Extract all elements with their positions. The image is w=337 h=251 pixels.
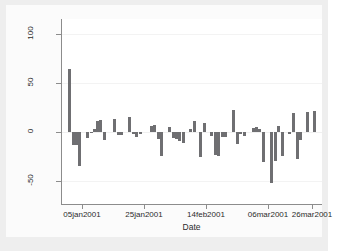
bar bbox=[178, 132, 181, 142]
y-axis-tick-label: 100 bbox=[27, 13, 35, 53]
plot-area bbox=[61, 19, 322, 205]
bar bbox=[120, 132, 123, 136]
bar bbox=[139, 132, 142, 134]
bar bbox=[277, 126, 280, 132]
x-axis-tick bbox=[82, 205, 83, 209]
bar bbox=[281, 132, 284, 156]
y-axis-title: Closing price change bbox=[12, 0, 23, 19]
x-axis-tick-label: 25jan2001 bbox=[109, 210, 179, 220]
gridline-50 bbox=[62, 83, 322, 84]
y-axis-tick-label: 0 bbox=[27, 111, 35, 151]
bar bbox=[128, 117, 131, 132]
bar bbox=[224, 132, 227, 138]
x-axis-tick-label: 05jan2001 bbox=[47, 210, 117, 220]
y-axis-tick-label: 50 bbox=[27, 62, 35, 102]
graph-region: Closing price change Date -5005010005jan… bbox=[6, 5, 322, 237]
bar bbox=[153, 125, 156, 132]
bar bbox=[288, 132, 291, 134]
x-axis-title: Date bbox=[61, 222, 322, 232]
y-axis-tick bbox=[56, 34, 61, 35]
bar bbox=[262, 132, 265, 162]
bar bbox=[99, 120, 102, 132]
bar bbox=[270, 132, 273, 184]
bar bbox=[68, 69, 71, 132]
bar bbox=[232, 110, 235, 132]
bar bbox=[243, 132, 246, 137]
bar bbox=[203, 123, 206, 132]
gridline--50 bbox=[62, 181, 322, 182]
bar bbox=[193, 121, 196, 132]
bar bbox=[258, 129, 261, 132]
x-axis-tick bbox=[206, 205, 207, 209]
bar bbox=[306, 112, 309, 132]
y-axis-tick bbox=[56, 181, 61, 182]
bar bbox=[217, 132, 220, 156]
x-axis-tick bbox=[268, 205, 269, 209]
bar bbox=[189, 129, 192, 132]
y-axis-tick bbox=[56, 132, 61, 133]
bar bbox=[78, 132, 81, 166]
bar bbox=[160, 132, 163, 156]
bar bbox=[90, 132, 93, 133]
bar bbox=[299, 132, 302, 141]
bar bbox=[239, 132, 242, 134]
bar bbox=[313, 111, 316, 132]
x-axis-tick-label: 26mar2001 bbox=[277, 210, 337, 220]
bar bbox=[135, 132, 138, 138]
x-axis-tick-label: 14feb2001 bbox=[171, 210, 241, 220]
bar bbox=[274, 132, 277, 161]
bar bbox=[103, 132, 106, 141]
bar bbox=[199, 132, 202, 157]
bar bbox=[292, 113, 295, 132]
bar bbox=[113, 119, 116, 132]
bar bbox=[168, 127, 171, 132]
x-axis-tick bbox=[144, 205, 145, 209]
bar bbox=[182, 132, 185, 144]
y-axis-tick bbox=[56, 83, 61, 84]
plot-inner bbox=[62, 19, 322, 204]
x-axis-tick bbox=[312, 205, 313, 209]
y-axis-tick-label: -50 bbox=[27, 160, 35, 200]
bar bbox=[86, 132, 89, 139]
gridline-100 bbox=[62, 34, 322, 35]
bar bbox=[210, 132, 213, 137]
